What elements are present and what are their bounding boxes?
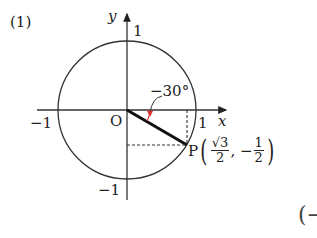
- tick-x-neg: −1: [30, 116, 52, 131]
- partial-text-cutoff: (−: [298, 204, 317, 226]
- x-axis-label: x: [218, 114, 226, 129]
- point-p-label: P ( √3 2 , − 1 2 ): [188, 133, 277, 168]
- y-axis-label: y: [108, 9, 116, 24]
- tick-x-pos: 1: [198, 116, 208, 131]
- tick-y-neg: −1: [98, 183, 120, 198]
- point-x-fraction: √3 2: [211, 136, 230, 164]
- problem-number: (1): [10, 15, 31, 30]
- angle-label: −30°: [150, 84, 189, 99]
- radius-op: [127, 110, 187, 145]
- origin-label: O: [110, 114, 122, 129]
- point-y-fraction: 1 2: [254, 136, 264, 164]
- tick-y-pos: 1: [133, 24, 143, 39]
- point-name: P: [188, 142, 198, 160]
